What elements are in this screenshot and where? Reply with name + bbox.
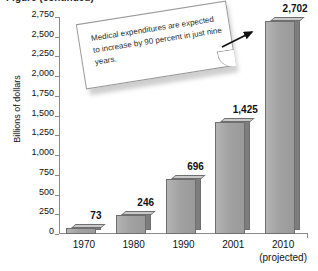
y-axis-tick-label: 2,250: [10, 49, 54, 58]
bar-1980: [116, 211, 146, 234]
y-axis-tick-label: 1,250: [10, 128, 54, 137]
bar-2001: [215, 118, 245, 234]
figure-title-text: Figure (continued): [6, 0, 94, 3]
y-axis-tick-label: 2,500: [10, 30, 54, 39]
callout-box: Medical expenditures are expected to inc…: [76, 1, 236, 90]
y-axis-tick-label: 0: [10, 227, 54, 236]
bar-side-face: [196, 175, 201, 230]
y-axis-tick-mark: [55, 234, 59, 235]
bar-top-face: [220, 118, 255, 122]
y-axis-tick-label: 250: [10, 207, 54, 216]
bar-side-face: [295, 17, 300, 230]
bar-top-face: [270, 17, 305, 21]
bar-front-face: [166, 179, 196, 234]
x-axis-sublabel-2010: (projected): [247, 252, 318, 263]
bar-front-face: [265, 21, 295, 234]
bar-top-face: [121, 211, 156, 215]
callout-folded-corner-icon: [217, 49, 236, 68]
y-axis-tick-label: 1,000: [10, 148, 54, 157]
y-axis-tick-label: 2,750: [10, 10, 54, 19]
callout-annotation: Medical expenditures are expected to inc…: [78, 8, 246, 96]
x-axis-label-2010: 2010: [252, 239, 314, 250]
bar-1970: [66, 224, 96, 234]
y-axis-tick-label: 1,750: [10, 89, 54, 98]
callout-text: Medical expenditures are expected to inc…: [90, 12, 226, 68]
bar-top-face: [171, 175, 206, 179]
y-axis-tick-labels: 2,7502,5002,2502,0001,7501,5001,2501,000…: [10, 14, 54, 230]
bar-front-face: [215, 122, 245, 234]
bar-value-label: 2,702: [265, 3, 318, 14]
y-axis-tick-label: 750: [10, 168, 54, 177]
y-axis-tick-label: 1,500: [10, 109, 54, 118]
bar-2010: [265, 17, 295, 234]
y-axis-tick-label: 500: [10, 188, 54, 197]
bar-top-face: [71, 224, 106, 228]
bar-front-face: [66, 228, 96, 234]
medical-expenditures-bar-chart: Figure (continued) Billions of dollars 2…: [0, 0, 318, 271]
bar-front-face: [116, 215, 146, 234]
y-axis-tick-label: 2,000: [10, 69, 54, 78]
bar-side-face: [245, 118, 250, 230]
bar-1990: [166, 175, 196, 234]
